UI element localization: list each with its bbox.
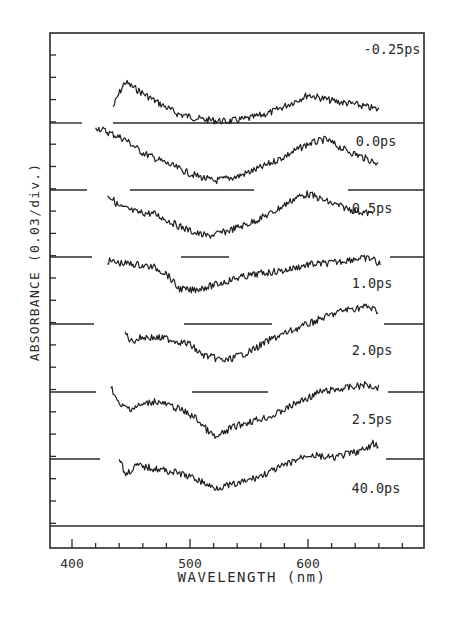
y-axis-label: ABSORBANCE (0.03/div.)	[27, 163, 42, 362]
trace-1.0ps	[107, 256, 380, 294]
spectral-traces	[96, 80, 381, 490]
trace-0.5ps	[107, 191, 373, 238]
trace-label: 1.0ps	[352, 275, 393, 291]
x-axis-ticks	[72, 539, 402, 548]
trace-label: -0.25ps	[364, 41, 421, 57]
trace-baselines	[50, 123, 424, 459]
y-axis-ticks	[50, 55, 56, 523]
trace-2.5ps	[111, 382, 379, 439]
trace-label: 0.0ps	[356, 133, 397, 149]
trace-label: 2.0ps	[352, 342, 393, 358]
trace-40.0ps	[119, 440, 378, 490]
trace-2.0ps	[125, 304, 378, 362]
x-axis-label: WAVELENGTH (nm)	[178, 569, 327, 585]
absorbance-chart: -0.25ps0.0ps0.5ps1.0ps2.0ps2.5ps40.0ps 4…	[0, 0, 451, 622]
trace-0.0ps	[96, 127, 379, 183]
x-tick-label: 400	[60, 556, 83, 571]
trace-label: 2.5ps	[352, 411, 393, 427]
trace--0.25ps	[113, 80, 379, 124]
trace-label: 0.5ps	[352, 200, 393, 216]
trace-label: 40.0ps	[352, 480, 401, 496]
